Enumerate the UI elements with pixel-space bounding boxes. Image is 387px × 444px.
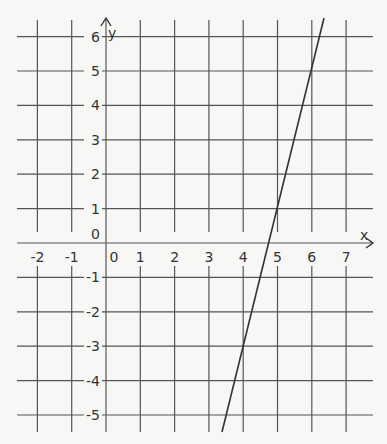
x-tick-label: 6 xyxy=(307,249,316,265)
x-tick-label: -1 xyxy=(65,249,79,265)
y-axis-label: y xyxy=(108,25,116,41)
x-tick-label: -2 xyxy=(30,249,44,265)
x-axis-label: x xyxy=(360,227,368,243)
y-tick-label: -2 xyxy=(86,304,100,320)
graph-svg: -2-1012345676543210-1-2-3-4-5 y x xyxy=(0,0,387,444)
x-tick-label: 4 xyxy=(239,249,248,265)
y-tick-label: 2 xyxy=(91,166,100,182)
y-tick-label: 4 xyxy=(91,97,100,113)
y-tick-label: 6 xyxy=(91,29,100,45)
y-tick-label: 3 xyxy=(91,132,100,148)
grid-lines xyxy=(17,18,373,432)
y-tick-label: -5 xyxy=(86,407,100,423)
y-tick-label: -4 xyxy=(86,373,100,389)
y-tick-label: 1 xyxy=(91,201,100,217)
coordinate-grid: -2-1012345676543210-1-2-3-4-5 y x xyxy=(0,0,387,444)
x-tick-label: 1 xyxy=(136,249,145,265)
x-tick-label: 3 xyxy=(204,249,213,265)
x-tick-label: 0 xyxy=(110,249,119,265)
y-tick-label: -1 xyxy=(86,269,100,285)
tick-labels: -2-1012345676543210-1-2-3-4-5 xyxy=(30,29,350,423)
y-tick-label: 5 xyxy=(91,63,100,79)
y-tick-label: 0 xyxy=(91,226,100,242)
x-tick-label: 5 xyxy=(273,249,282,265)
x-tick-label: 2 xyxy=(170,249,179,265)
y-tick-label: -3 xyxy=(86,338,100,354)
linear-function-line xyxy=(222,18,324,432)
x-tick-label: 7 xyxy=(342,249,351,265)
